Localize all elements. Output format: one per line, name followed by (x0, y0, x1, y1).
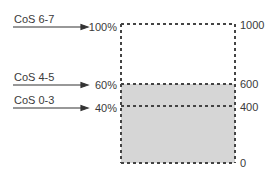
label-cos-4-5: CoS 4-5 (14, 71, 54, 83)
shaded-region (121, 84, 235, 163)
label-cos-6-7: CoS 6-7 (14, 13, 54, 25)
percent-40: 40% (77, 102, 117, 114)
scale-400: 400 (240, 101, 258, 113)
percent-60: 60% (77, 79, 117, 91)
percent-100: 100% (77, 21, 117, 33)
scale-600: 600 (240, 78, 258, 90)
scale-0: 0 (240, 157, 246, 169)
scale-1000: 1000 (240, 19, 264, 31)
diagram-canvas (0, 0, 271, 175)
label-cos-0-3: CoS 0-3 (14, 94, 54, 106)
